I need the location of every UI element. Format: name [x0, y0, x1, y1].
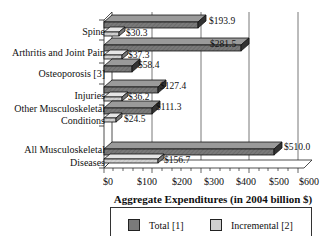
legend: Total [1] Incremental [2]	[110, 207, 312, 236]
value-label-other-incremental: $24.5	[124, 114, 145, 124]
bar-other-total	[104, 101, 160, 114]
legend-swatch-total	[128, 219, 140, 231]
value-label-arthritis-total: $281.5	[210, 39, 236, 49]
legend-swatch-incremental	[210, 219, 222, 231]
x-tick-100: $100	[137, 176, 157, 187]
x-tick-400: $400	[236, 176, 256, 187]
category-label-injuries: Injuries	[74, 90, 105, 101]
legend-item-total: Total [1]	[128, 219, 184, 231]
value-label-spine-total: $193.9	[209, 16, 235, 26]
bar-spine-total	[104, 15, 206, 28]
x-axis-title: Aggregate Expenditures (in 2004 billion …	[108, 193, 318, 205]
bar-all-incremental	[104, 154, 164, 163]
legend-label-total: Total [1]	[149, 220, 184, 231]
value-label-all-incremental: $156.7	[164, 155, 190, 165]
category-label-all-line1: All Musculoskeletal	[24, 144, 105, 155]
bar-osteoporosis-total	[104, 59, 140, 72]
legend-item-incremental: Incremental [2]	[210, 219, 293, 231]
value-label-arthritis-incremental: $37.3	[128, 50, 149, 60]
x-tick-300: $300	[204, 176, 224, 187]
x-tick-500: $500	[269, 176, 289, 187]
bar-all-total	[104, 142, 282, 155]
category-label-osteoporosis: Osteoporosis [3]	[39, 68, 105, 79]
category-label-spine: Spine	[82, 26, 105, 37]
value-label-other-total: $111.3	[156, 102, 181, 112]
chart-figure: Spine Arthritis and Joint Pain Osteoporo…	[0, 0, 323, 236]
category-label-other-line1: Other Musculoskeletal	[14, 103, 105, 114]
legend-label-incremental: Incremental [2]	[231, 220, 293, 231]
value-label-spine-incremental: $30.3	[126, 28, 147, 38]
x-tick-0: $0	[103, 176, 113, 187]
value-label-all-total: $510.0	[284, 142, 310, 152]
x-tick-200: $200	[172, 176, 192, 187]
value-label-osteoporosis-total: $58.4	[138, 60, 159, 70]
value-label-injuries-total: $127.4	[160, 81, 186, 91]
category-label-all-line2: Diseases	[70, 157, 105, 168]
x-tick-600: $600	[299, 176, 319, 187]
value-label-injuries-incremental: $36.2	[128, 92, 149, 102]
category-label-other-line2: Conditions	[61, 115, 105, 126]
category-label-arthritis: Arthritis and Joint Pain	[12, 47, 105, 58]
